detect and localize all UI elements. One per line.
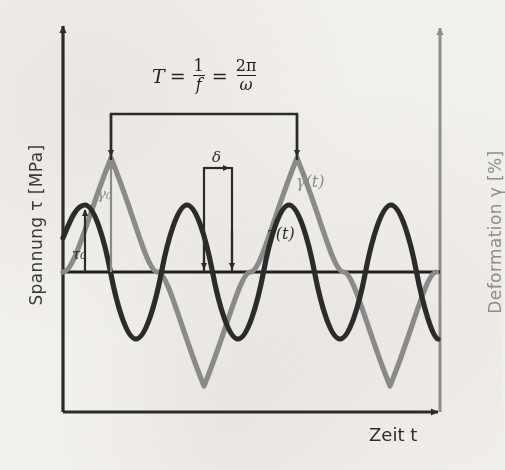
- tau0-amplitude-label: τ₀: [72, 245, 86, 263]
- frequency-denominator: f: [193, 75, 205, 93]
- omega-denominator: ω: [237, 75, 256, 93]
- period-equals-1: =: [170, 65, 186, 87]
- gamma0-amplitude-label: γ₀: [97, 185, 112, 203]
- omega-fraction: 2π ω: [233, 58, 260, 93]
- y-axis-right-label: Deformation γ [%]: [485, 122, 505, 342]
- y-axis-left-label: Spannung τ [MPa]: [26, 115, 46, 335]
- tau-curve-label: τ(t): [267, 224, 295, 243]
- period-bracket: [111, 114, 297, 160]
- period-formula: T = 1 f = 2π ω: [152, 58, 259, 93]
- omega-numerator: 2π: [233, 58, 260, 75]
- phase-shift-label: δ: [212, 148, 221, 166]
- gamma-curve-label: γ(t): [296, 172, 324, 191]
- period-equals-2: =: [212, 65, 228, 87]
- period-symbol: T: [152, 65, 165, 87]
- frequency-fraction: 1 f: [191, 58, 207, 93]
- x-axis-label: Zeit t: [369, 424, 417, 445]
- frequency-numerator: 1: [191, 58, 207, 75]
